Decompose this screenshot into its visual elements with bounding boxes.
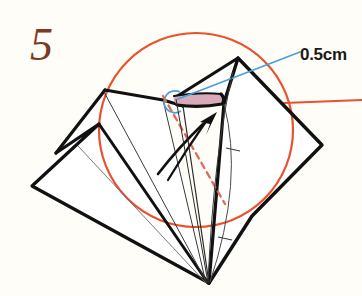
origami-diagram-stage: 5 0.5cm xyxy=(0,0,362,296)
zoom-leader-line xyxy=(284,100,362,103)
dimension-label: 0.5cm xyxy=(300,45,347,65)
step-number: 5 xyxy=(30,22,53,68)
paper-thickness-sliver-group xyxy=(174,93,224,106)
